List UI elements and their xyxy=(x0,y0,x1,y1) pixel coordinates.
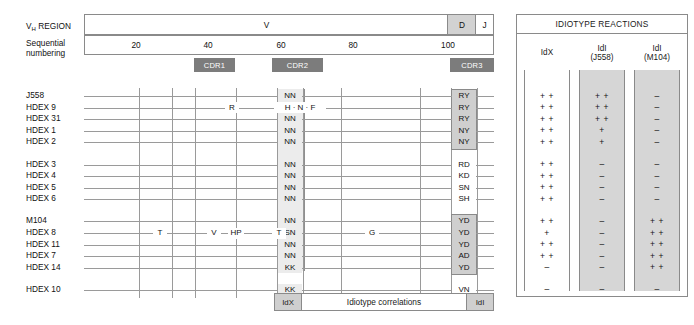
cdr3-residue-hdex-6: SH xyxy=(452,194,476,205)
row-label-j558: J558 xyxy=(26,90,44,101)
reaction-cell: – xyxy=(524,262,570,273)
reaction-cell: + + xyxy=(524,182,570,193)
mutation-marker: H · N · F xyxy=(274,102,327,113)
cdr2-residue-hdex-11: NN xyxy=(278,239,302,250)
cdr3-residue-hdex-2: NY xyxy=(452,137,476,148)
reaction-cell: + + xyxy=(579,102,625,113)
cdr3-residue-hdex-11: YD xyxy=(452,239,476,250)
reaction-cell: – xyxy=(634,91,680,102)
cdr2-residue-hdex-4: NN xyxy=(278,171,302,182)
reaction-cell: + + xyxy=(524,114,570,125)
cdr2-residue-hdex-3: NN xyxy=(278,159,302,170)
mutation-marker: G xyxy=(365,228,379,239)
reaction-cell: + + xyxy=(524,137,570,148)
cdr3-residue-hdex-1: NY xyxy=(452,125,476,136)
reaction-cell: + + xyxy=(634,262,680,273)
reaction-cell: + + xyxy=(524,194,570,205)
cdr3-residue-hdex-7: AD xyxy=(452,251,476,262)
column-header-line1: IdI xyxy=(597,44,606,54)
reaction-cell: + + xyxy=(634,228,680,239)
reaction-cell: – xyxy=(579,159,625,170)
reaction-cell: – xyxy=(634,194,680,205)
reaction-cell: – xyxy=(579,171,625,182)
cdr3-residue-m104: YD xyxy=(452,216,476,227)
reaction-cell: + + xyxy=(634,239,680,250)
column-header-idx: IdX xyxy=(524,36,570,70)
column-header-line1: IdX xyxy=(541,48,553,58)
reaction-cell: – xyxy=(524,284,570,295)
reaction-cell: – xyxy=(579,262,625,273)
reaction-cell: + + xyxy=(524,91,570,102)
column-header-line2: (M104) xyxy=(644,53,670,63)
reaction-cell: – xyxy=(634,137,680,148)
row-label-hdex-2: HDEX 2 xyxy=(26,136,56,147)
row-label-hdex-3: HDEX 3 xyxy=(26,159,56,170)
figure-root: VH REGION Sequential numbering V D J 20 … xyxy=(0,0,694,325)
column-header-idi-j558: IdI(J558) xyxy=(579,36,625,70)
reaction-cell: – xyxy=(634,102,680,113)
cdr3-residue-hdex-31: RY xyxy=(452,114,476,125)
mutation-marker: T xyxy=(153,228,167,239)
row-label-hdex-10: HDEX 10 xyxy=(26,284,61,295)
mutation-marker: R xyxy=(225,102,239,113)
row-label-hdex-5: HDEX 5 xyxy=(26,182,56,193)
reaction-cell: – xyxy=(579,284,625,295)
reaction-cell: – xyxy=(579,194,625,205)
reaction-cell: + + xyxy=(524,171,570,182)
cdr2-residue-m104: NN xyxy=(278,216,302,227)
reaction-cell: – xyxy=(579,251,625,262)
reaction-cell: – xyxy=(634,284,680,295)
column-header-line1: IdI xyxy=(652,44,661,54)
mutation-marker: HP xyxy=(228,228,244,239)
cdr2-residue-hdex-31: NN xyxy=(278,114,302,125)
reaction-cell: – xyxy=(579,228,625,239)
reaction-cell: + xyxy=(579,125,625,136)
cdr2-residue-hdex-7: NN xyxy=(278,251,302,262)
reaction-cell: + + xyxy=(579,114,625,125)
row-label-m104: M104 xyxy=(26,215,47,226)
row-label-hdex-4: HDEX 4 xyxy=(26,170,56,181)
correlation-idx-label: IdX xyxy=(275,294,302,310)
reaction-cell: – xyxy=(579,239,625,250)
reaction-cell: + xyxy=(579,137,625,148)
reaction-cell: + + xyxy=(524,102,570,113)
cdr3-residue-hdex-8: YD xyxy=(452,228,476,239)
row-label-hdex-9: HDEX 9 xyxy=(26,102,56,113)
cdr2-residue-hdex-1: NN xyxy=(278,125,302,136)
cdr2-residue-hdex-5: NN xyxy=(278,182,302,193)
reaction-cell: + + xyxy=(579,91,625,102)
reaction-cell: – xyxy=(634,114,680,125)
reaction-cell: + xyxy=(524,228,570,239)
column-header-line2: (J558) xyxy=(590,53,613,63)
reaction-cell: – xyxy=(634,159,680,170)
reaction-cell: + + xyxy=(524,251,570,262)
reaction-cell: – xyxy=(634,125,680,136)
reaction-cell: + + xyxy=(524,159,570,170)
column-header-idi-m104: IdI(M104) xyxy=(634,36,680,70)
cdr3-residue-hdex-9: RY xyxy=(452,102,476,113)
row-label-hdex-7: HDEX 7 xyxy=(26,250,56,261)
reaction-cell: – xyxy=(634,171,680,182)
row-label-hdex-31: HDEX 31 xyxy=(26,113,61,124)
cdr2-residue-hdex-14: KK xyxy=(278,262,302,273)
row-label-hdex-11: HDEX 11 xyxy=(26,239,60,250)
mutation-marker: T xyxy=(272,228,286,239)
reaction-cell: + + xyxy=(524,125,570,136)
reaction-cell: – xyxy=(579,216,625,227)
reaction-cell: + + xyxy=(634,251,680,262)
cdr3-residue-hdex-5: SN xyxy=(452,182,476,193)
cdr2-residue-hdex-2: NN xyxy=(278,137,302,148)
row-label-hdex-14: HDEX 14 xyxy=(26,262,61,273)
reaction-cell: + + xyxy=(524,216,570,227)
cdr3-residue-hdex-4: KD xyxy=(452,171,476,182)
row-label-hdex-6: HDEX 6 xyxy=(26,193,56,204)
cdr2-residue-hdex-6: NN xyxy=(278,194,302,205)
cdr3-residue-j558: RY xyxy=(452,91,476,102)
correlation-center-label: Idiotype correlations xyxy=(301,294,467,310)
cdr2-residue-j558: NN xyxy=(278,91,302,102)
idiotype-reactions-title: IDIOTYPE REACTIONS xyxy=(516,14,688,33)
cdr3-residue-hdex-3: RD xyxy=(452,159,476,170)
correlation-idi-label: IdI xyxy=(466,294,493,310)
row-label-hdex-1: HDEX 1 xyxy=(26,125,56,136)
cdr3-residue-hdex-14: YD xyxy=(452,262,476,273)
